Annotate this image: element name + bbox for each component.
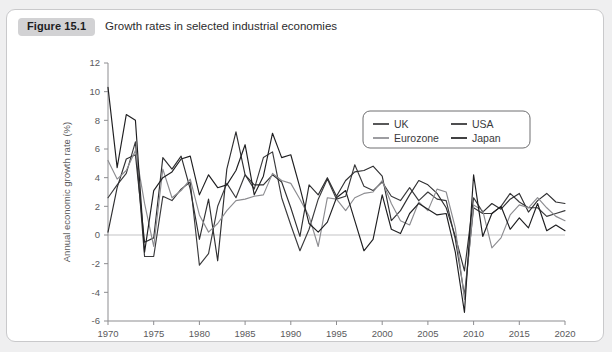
y-axis-tick-label: 12 — [89, 57, 100, 68]
y-axis-tick-label: -4 — [92, 287, 100, 298]
figure-number-badge: Figure 15.1 — [18, 18, 95, 36]
y-axis-tick-label: -2 — [92, 258, 100, 269]
legend-label-japan: Japan — [472, 132, 501, 144]
figure-card: Figure 15.1 Growth rates in selected ind… — [6, 9, 604, 342]
chart-plot-area: -6-4-20246810121970197519801985199019952… — [7, 40, 605, 343]
series-line-usa — [108, 132, 565, 271]
legend-label-eurozone: Eurozone — [394, 132, 439, 144]
legend-label-usa: USA — [472, 118, 494, 130]
y-axis-tick-label: 8 — [95, 115, 100, 126]
chart-legend: UKUSAEurozoneJapan — [363, 111, 530, 148]
y-axis-tick-label: 2 — [95, 201, 100, 212]
x-axis-tick-label: 2015 — [509, 328, 530, 339]
y-axis-tick-label: -6 — [92, 315, 100, 326]
x-axis-tick-label: 2000 — [372, 328, 393, 339]
figure-caption: Growth rates in selected industrial econ… — [105, 21, 337, 33]
y-axis-tick-label: 4 — [95, 172, 100, 183]
growth-rates-line-chart: -6-4-20246810121970197519801985199019952… — [7, 40, 605, 343]
series-line-eurozone — [108, 150, 565, 299]
x-axis-tick-label: 2020 — [554, 328, 575, 339]
y-axis-tick-label: 0 — [95, 229, 100, 240]
x-axis-tick-label: 2005 — [417, 328, 438, 339]
y-axis-title: Annual economic growth rate (%) — [61, 122, 72, 262]
y-axis-tick-label: 10 — [89, 86, 100, 97]
legend-label-uk: UK — [394, 118, 409, 130]
x-axis-tick-label: 1990 — [280, 328, 301, 339]
x-axis-tick-label: 1980 — [189, 328, 210, 339]
x-axis-tick-label: 1975 — [143, 328, 164, 339]
x-axis-tick-label: 1995 — [326, 328, 347, 339]
x-axis-tick-label: 1970 — [97, 328, 118, 339]
legend-box — [363, 111, 530, 148]
x-axis-tick-label: 2010 — [463, 328, 484, 339]
figure-header: Figure 15.1 Growth rates in selected ind… — [7, 10, 603, 40]
x-axis-tick-label: 1985 — [235, 328, 256, 339]
y-axis-tick-label: 6 — [95, 143, 100, 154]
